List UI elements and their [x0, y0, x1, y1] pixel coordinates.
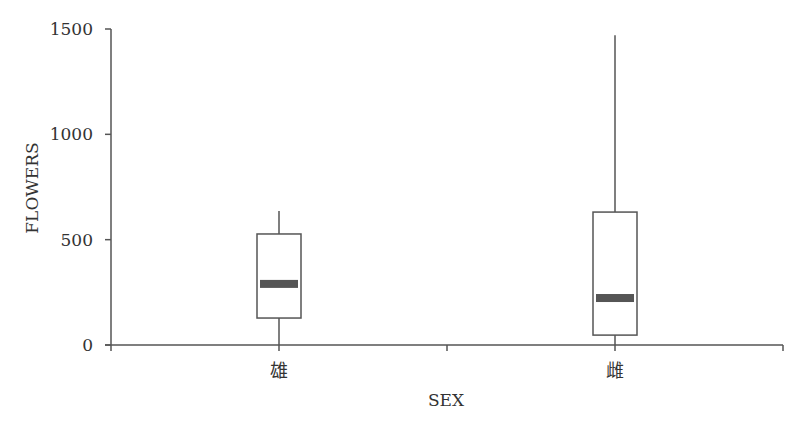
iqr-box	[593, 212, 637, 335]
iqr-box	[257, 234, 301, 318]
boxes	[257, 35, 637, 345]
y-tick-label: 1000	[50, 124, 93, 144]
y-tick-label: 1500	[50, 19, 93, 39]
y-axis-title: FLOWERS	[22, 142, 42, 233]
y-tick-label: 0	[82, 335, 93, 355]
x-category-label: 雄	[270, 360, 288, 381]
median-bar	[260, 280, 298, 288]
box-female	[593, 35, 637, 345]
box-plot-chart: 050010001500 雄雌 FLOWERS SEX	[0, 0, 804, 426]
median-bar	[596, 294, 634, 302]
x-axis-title: SEX	[428, 390, 465, 410]
box-male	[257, 211, 301, 345]
x-category-label: 雌	[606, 360, 624, 381]
x-axis: 雄雌	[105, 345, 783, 381]
y-tick-label: 500	[61, 230, 93, 250]
y-axis: 050010001500	[50, 19, 111, 355]
